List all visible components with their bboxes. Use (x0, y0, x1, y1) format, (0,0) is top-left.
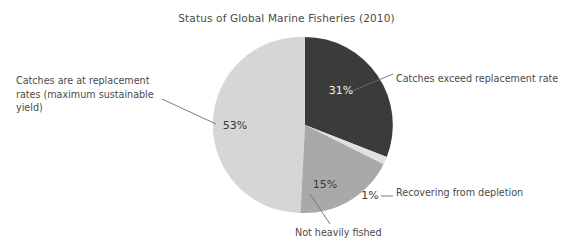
slice-percent-not-fished: 15% (313, 178, 337, 191)
slice-percent-recovering: 1% (361, 189, 378, 202)
callout-label-replacement: Catches are at replacement rates (maximu… (16, 74, 176, 115)
callout-label-recovering: Recovering from depletion (396, 186, 566, 200)
slice-percent-replacement: 53% (223, 119, 247, 132)
pie-chart: 31% 53% 15% 1% (0, 0, 573, 252)
slice-percent-exceed: 31% (329, 84, 353, 97)
callout-label-exceed: Catches exceed replacement rate (396, 72, 568, 86)
callout-label-not-fished: Not heavily fished (295, 226, 445, 240)
chart-figure: Status of Global Marine Fisheries (2010)… (0, 0, 573, 252)
